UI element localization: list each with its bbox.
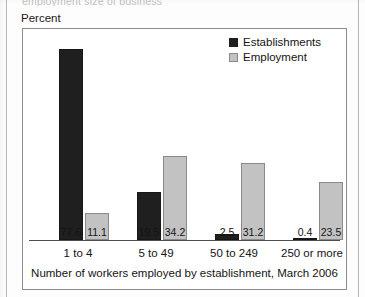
bar-group: 2.5 31.2 bbox=[197, 43, 269, 240]
clipped-heading: employment size of business bbox=[22, 0, 262, 6]
bar-value-label: 77.6 bbox=[61, 226, 81, 238]
bar-value-label: 31.2 bbox=[243, 226, 263, 238]
bar-group: 19.5 34.2 bbox=[119, 43, 191, 240]
page-rule-right bbox=[358, 0, 359, 297]
x-axis-tick-label: 1 to 4 bbox=[64, 247, 93, 259]
chart-frame: Establishments Employment 77.6 11.1 bbox=[22, 28, 347, 290]
page-rule-left bbox=[6, 0, 7, 297]
bar-value-label: 0.4 bbox=[298, 226, 313, 238]
bar-group: 77.6 11.1 bbox=[41, 43, 113, 240]
bar-value-label: 19.5 bbox=[139, 226, 159, 238]
bar-value-label: 34.2 bbox=[165, 226, 185, 238]
bar-value-label: 23.5 bbox=[321, 226, 341, 238]
bar-establishments bbox=[59, 49, 83, 240]
y-axis-unit-label: Percent bbox=[21, 12, 61, 24]
scanned-page: employment size of business Percent Esta… bbox=[0, 0, 365, 297]
x-axis-category-labels: 1 to 4 5 to 49 50 to 249 250 or more bbox=[29, 247, 340, 263]
x-axis-baseline bbox=[29, 240, 340, 241]
x-axis-tick-label: 250 or more bbox=[281, 247, 343, 259]
x-axis-tick-label: 5 to 49 bbox=[138, 247, 173, 259]
x-axis-tick-label: 50 to 249 bbox=[210, 247, 258, 259]
bar-group: 0.4 23.5 bbox=[275, 43, 347, 240]
bar-value-label: 2.5 bbox=[220, 226, 235, 238]
x-axis-title: Number of workers employed by establishm… bbox=[23, 267, 346, 279]
bar-value-label: 11.1 bbox=[87, 226, 107, 238]
plot-area: 77.6 11.1 19.5 34.2 bbox=[29, 43, 340, 241]
